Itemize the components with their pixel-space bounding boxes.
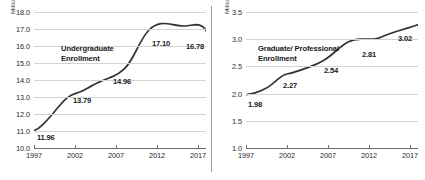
series-label: Undergraduate Enrollment (61, 44, 114, 63)
chart-undergraduate-enrollment: Millions 18.0 17.0 16.0 15.0 14.0 13.0 1… (0, 0, 212, 180)
chart-graduate-professional-enrollment: Millions 3.5 3.0 2.5 2.0 1.5 1.0 1997 20… (212, 0, 425, 180)
data-label: 2.27 (283, 81, 297, 90)
data-label: 11.96 (37, 133, 55, 142)
gridline (34, 131, 206, 132)
y-tick-label: 14.0 (6, 76, 30, 85)
data-label: 2.54 (324, 66, 338, 75)
gridline (246, 94, 418, 95)
data-label: 16.78 (186, 42, 204, 51)
x-tick-label: 2007 (312, 151, 344, 160)
gridline (34, 97, 206, 98)
y-tick-label: 3.5 (222, 8, 242, 17)
x-tick-mark (34, 145, 35, 148)
series-label-line-1: Undergraduate (61, 44, 114, 53)
x-tick-label: 2007 (100, 151, 132, 160)
data-label: 3.02 (398, 34, 412, 43)
data-label: 17.10 (152, 39, 170, 48)
series-label-line-2: Enrollment (61, 54, 100, 63)
gridline (34, 63, 206, 64)
x-tick-label: 2012 (141, 151, 173, 160)
x-tick-mark (157, 145, 158, 148)
x-tick-label: 1997 (230, 151, 262, 160)
x-tick-label: 2012 (353, 151, 385, 160)
graduate-series-line (246, 12, 418, 148)
x-tick-mark (75, 145, 76, 148)
y-tick-label: 3.0 (222, 35, 242, 44)
plot-area (246, 12, 418, 148)
y-tick-label: 2.0 (222, 90, 242, 99)
series-label-line-2: Enrollment (258, 54, 297, 63)
gridline (34, 114, 206, 115)
y-tick-label: 17.0 (6, 25, 30, 34)
figure-root: Millions 18.0 17.0 16.0 15.0 14.0 13.0 1… (0, 0, 425, 180)
data-label: 13.79 (73, 96, 91, 105)
gridline (34, 46, 206, 47)
y-tick-label: 11.0 (6, 127, 30, 136)
gridline (246, 121, 418, 122)
y-tick-label: 12.0 (6, 110, 30, 119)
x-tick-mark (328, 145, 329, 148)
data-label: 1.98 (248, 100, 262, 109)
series-label: Graduate/ Professional Enrollment (258, 44, 339, 63)
x-tick-mark (246, 145, 247, 148)
x-tick-mark (198, 145, 199, 148)
data-label: 14.96 (113, 77, 131, 86)
gridline (34, 12, 206, 13)
data-label: 2.81 (362, 50, 376, 59)
x-tick-label: 2017 (394, 151, 425, 160)
gridline (246, 39, 418, 40)
series-label-line-1: Graduate/ Professional (258, 44, 339, 53)
x-axis-line (246, 148, 418, 149)
x-tick-label: 1997 (18, 151, 50, 160)
y-tick-label: 1.5 (222, 117, 242, 126)
y-tick-label: 18.0 (6, 8, 30, 17)
y-tick-label: 13.0 (6, 93, 30, 102)
x-tick-mark (116, 145, 117, 148)
x-axis-line (34, 148, 206, 149)
y-tick-label: 2.5 (222, 62, 242, 71)
x-tick-mark (369, 145, 370, 148)
x-tick-mark (410, 145, 411, 148)
x-tick-label: 2017 (182, 151, 214, 160)
y-tick-label: 15.0 (6, 59, 30, 68)
gridline (34, 29, 206, 30)
x-tick-label: 2002 (59, 151, 91, 160)
x-tick-mark (287, 145, 288, 148)
x-tick-label: 2002 (271, 151, 303, 160)
y-tick-label: 16.0 (6, 42, 30, 51)
gridline (246, 12, 418, 13)
